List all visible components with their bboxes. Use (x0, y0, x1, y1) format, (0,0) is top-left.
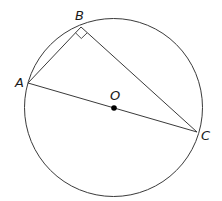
label-a: A (14, 75, 24, 90)
right-angle-marker (76, 33, 88, 39)
label-o: O (110, 88, 120, 103)
label-b: B (75, 8, 84, 23)
segment-bc (81, 27, 197, 132)
center-point-o (111, 105, 117, 111)
label-c: C (201, 128, 211, 143)
geometry-diagram: A B C O (0, 0, 222, 201)
segment-ab (28, 27, 81, 83)
